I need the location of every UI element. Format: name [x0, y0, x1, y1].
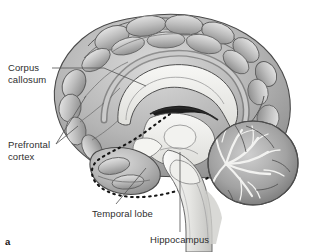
label-hippocampus: Hippocampus [150, 234, 209, 246]
label-corpus-callosum: Corpuscallosum [8, 62, 46, 85]
label-corpus-callosum-line1: Corpus [8, 62, 39, 73]
brain-diagram-figure [0, 0, 321, 252]
label-prefrontal-cortex: Prefrontalcortex [8, 139, 50, 162]
label-corpus-callosum-line2: callosum [8, 74, 46, 85]
cerebellum [206, 121, 300, 214]
label-temporal-lobe: Temporal lobe [92, 208, 153, 220]
label-prefrontal-cortex-line2: cortex [8, 151, 34, 162]
label-prefrontal-cortex-line1: Prefrontal [8, 139, 50, 150]
panel-label-a: a [5, 236, 10, 247]
